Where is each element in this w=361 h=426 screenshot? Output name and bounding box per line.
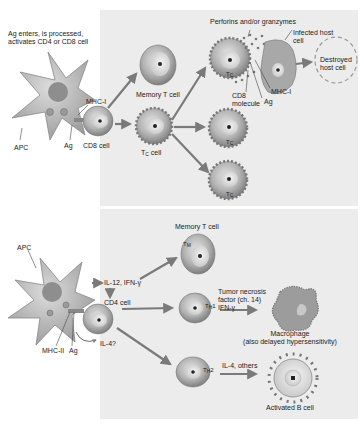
destroyed-line-1: Destroyed (320, 56, 352, 64)
tc-marker-attacking: TC (226, 70, 233, 79)
mhc1-label: MHC-I (86, 98, 106, 106)
intro-line-2: activates CD4 or CD8 cell (8, 38, 88, 46)
tnf-line-2: factor (ch. 14) (218, 296, 266, 304)
apc-top (12, 52, 95, 140)
cd4-cell-label: CD4 cell (104, 299, 130, 307)
apc-label-top: APC (14, 144, 28, 152)
il4q-label: IL-4? (100, 340, 116, 348)
ag-label-top: Ag (64, 142, 73, 150)
ag-label-bottom: Ag (69, 347, 78, 355)
activated-b-cell-label: Activated B cell (266, 404, 314, 412)
macrophage (272, 286, 318, 331)
mhc1-right-label: MHC-I (271, 88, 291, 96)
infected-line-1: Infected host (293, 29, 333, 37)
macrophage-label: Macrophage (also delayed hypersensitivit… (235, 330, 345, 346)
tc-marker-middle: TC (226, 138, 233, 147)
activated-b-cell (269, 354, 317, 402)
cd4-cell (83, 304, 113, 334)
cd8-cell (83, 106, 113, 136)
cd8-molecule-line-2: molecule (232, 100, 260, 108)
intro-line-1: Ag enters, is processed, (8, 30, 88, 38)
th1-marker: TH1 (205, 302, 216, 311)
tnf-line-3: IFN-γ (218, 304, 266, 312)
tc-suffix: cell (149, 149, 161, 156)
apc-label-bottom: APC (17, 244, 31, 252)
tc-marker-lower: TC (226, 190, 233, 199)
macrophage-line-1: Macrophage (235, 330, 345, 338)
infected-line-2: cell (293, 37, 333, 45)
tc-m3-sub: C (230, 192, 234, 198)
th2-marker: TH2 (203, 366, 214, 375)
th2-suffix: 2 (210, 367, 213, 373)
tnf-label: Tumor necrosis factor (ch. 14) IFN-γ (218, 288, 266, 312)
perforins-label: Perforins and/or granzymes (210, 18, 296, 26)
ag-right-label: Ag (264, 98, 273, 106)
mhc2-label: MHC-II (42, 347, 64, 355)
macrophage-line-2: (also delayed hypersensitivity) (235, 338, 345, 346)
tm-marker: TM (183, 240, 191, 249)
cd8-molecule-line-1: CD8 (232, 92, 260, 100)
th1-suffix: 1 (212, 303, 215, 309)
bottom-arrows (92, 258, 256, 374)
tnf-line-1: Tumor necrosis (218, 288, 266, 296)
il4-others-label: IL-4, others (222, 362, 257, 370)
infected-host-cell (261, 40, 296, 94)
memory-t-cell-label-bottom: Memory T cell (175, 223, 219, 231)
cd8-molecule-label: CD8 molecule (232, 92, 260, 108)
tc-m1-sub: C (230, 72, 234, 78)
intro-text: Ag enters, is processed, activates CD4 o… (8, 30, 88, 46)
apc-bottom (8, 258, 95, 345)
memory-t-cell-label-top: Memory T cell (136, 91, 180, 99)
memory-t-cell-top (140, 45, 176, 85)
il12-label: IL-12, IFN-γ (104, 279, 141, 287)
tm-sub: M (187, 242, 191, 248)
diagram-graphics (0, 0, 361, 426)
tc-m2-sub: C (230, 140, 234, 146)
infected-host-label: Infected host cell (293, 29, 333, 45)
destroyed-line-2: host cell (320, 64, 352, 72)
tc-cell (136, 108, 172, 144)
tc-cell-label: TC cell (141, 149, 161, 158)
destroyed-host-label: Destroyed host cell (320, 56, 352, 72)
cd8-cell-label: CD8 cell (83, 142, 109, 150)
